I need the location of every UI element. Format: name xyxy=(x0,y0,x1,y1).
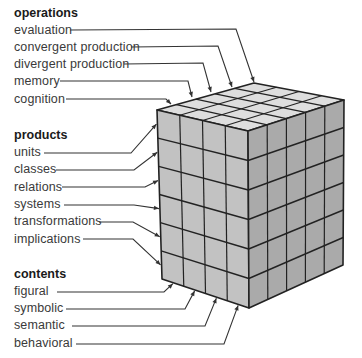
leader-memory xyxy=(60,81,192,97)
leader-transformations xyxy=(99,222,160,237)
label-classes: classes xyxy=(14,162,56,176)
arrowhead-icon xyxy=(234,305,238,310)
arrowhead-icon xyxy=(250,77,254,82)
label-units: units xyxy=(14,145,41,159)
label-behavioral: behavioral xyxy=(14,336,73,350)
label-implications: implications xyxy=(14,232,81,246)
label-transformations: transformations xyxy=(14,214,102,228)
leader-behavioral xyxy=(76,305,238,344)
label-relations: relations xyxy=(14,180,62,194)
leader-classes xyxy=(56,152,157,170)
leader-implications xyxy=(83,239,161,265)
label-semantic: semantic xyxy=(14,318,65,332)
cube xyxy=(157,83,344,308)
arrowhead-icon xyxy=(228,82,232,87)
leader-evaluation xyxy=(70,29,254,82)
label-divergent-production: divergent production xyxy=(14,57,129,71)
label-evaluation: evaluation xyxy=(14,23,72,37)
label-symbolic: symbolic xyxy=(14,301,63,315)
leader-relations xyxy=(62,180,158,187)
label-figural: figural xyxy=(14,284,49,298)
label-convergent-production: convergent production xyxy=(14,40,140,54)
leader-cognition xyxy=(66,99,171,104)
label-memory: memory xyxy=(14,74,60,88)
arrowhead-icon xyxy=(154,206,159,210)
right-face-operations xyxy=(248,100,344,308)
label-cognition: cognition xyxy=(14,92,65,106)
label-systems: systems xyxy=(14,197,61,211)
leader-figural xyxy=(57,284,173,292)
operations-header: operations xyxy=(14,6,78,20)
leader-semantic xyxy=(72,298,216,326)
leader-systems xyxy=(64,205,159,209)
products-header: products xyxy=(14,128,67,142)
leader-divergent-production xyxy=(124,63,211,92)
leader-symbolic xyxy=(66,291,195,309)
contents-header: contents xyxy=(14,267,66,281)
